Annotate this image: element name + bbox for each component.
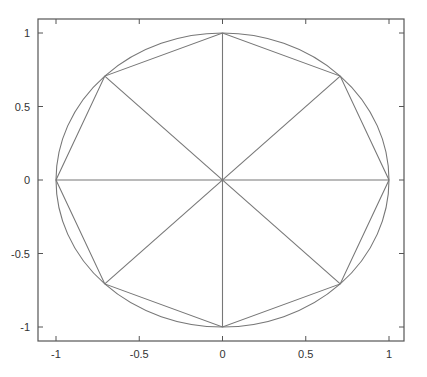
x-tick-label: 1 xyxy=(386,348,392,360)
data-layer xyxy=(56,33,389,327)
x-tick-label: -0.5 xyxy=(130,348,149,360)
y-tick-label: 0 xyxy=(24,174,30,186)
chart: -1-0.500.51 -1-0.500.51 xyxy=(0,0,427,377)
y-tick-label: -1 xyxy=(20,321,30,333)
y-tick-label: 0.5 xyxy=(15,101,30,113)
x-tick-label: 0.5 xyxy=(298,348,313,360)
y-tick-label: 1 xyxy=(24,27,30,39)
x-axis-tick-labels: -1-0.500.51 xyxy=(51,348,392,360)
y-tick-label: -0.5 xyxy=(11,248,30,260)
x-tick-label: 0 xyxy=(219,348,225,360)
y-axis-tick-labels: -1-0.500.51 xyxy=(11,27,30,333)
x-tick-label: -1 xyxy=(51,348,61,360)
